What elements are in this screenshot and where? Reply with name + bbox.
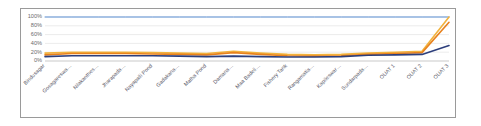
x-axis-tick-label: Jharapada…: [100, 62, 126, 88]
y-axis-tick-label: 20%: [31, 49, 42, 55]
line-chart: 100%80%60%40%20%0%BindusagarGosagareswa……: [21, 9, 455, 117]
y-axis-tick-label: 60%: [31, 31, 42, 37]
x-axis-tick-label: Rangamatia…: [286, 62, 315, 91]
x-axis-tick-label: OUAT 3: [432, 62, 450, 80]
x-axis-tick-label: Gosagareswa…: [41, 62, 73, 94]
chart-container: 100%80%60%40%20%0%BindusagarGosagareswa……: [20, 8, 456, 118]
x-axis-tick-label: Nilakanthes…: [72, 62, 100, 90]
chart-line-series-4: [45, 46, 449, 57]
x-axis-tick-label: Bindusagar: [22, 62, 46, 86]
chart-line-series-2: [45, 17, 449, 55]
x-axis-tick-label: Sundarpada…: [340, 62, 369, 91]
x-axis-tick-label: Matha Pond: [183, 62, 208, 87]
y-axis-tick-label: 80%: [31, 22, 42, 28]
x-axis-tick-label: Fishery Tank: [262, 62, 288, 88]
x-axis-tick-label: Kapileswar…: [315, 62, 342, 89]
chart-line-series-3: [45, 22, 449, 56]
x-axis-tick-label: Maa Badeli…: [234, 62, 261, 89]
x-axis-tick-label: OUAT 1: [378, 62, 396, 80]
x-axis-tick-label: Gadakana…: [155, 62, 181, 88]
x-axis-tick-label: Nayapalli Pond: [124, 62, 154, 92]
x-axis-tick-label: Damana…: [212, 62, 234, 84]
screenshot-canvas: 100%80%60%40%20%0%BindusagarGosagareswa……: [0, 0, 481, 126]
x-axis-tick-label: OUAT 2: [405, 62, 423, 80]
y-axis-tick-label: 40%: [31, 40, 42, 46]
y-axis-tick-label: 100%: [28, 13, 42, 19]
